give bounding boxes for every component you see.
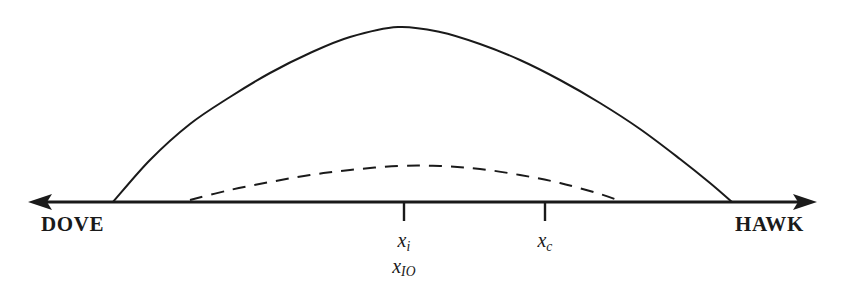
tick-label-xio: xIO	[374, 254, 434, 280]
dashed-curve	[190, 166, 620, 201]
tick-label-group-xc: xc	[515, 228, 575, 254]
tick-label-xi: xi	[374, 228, 434, 254]
tick-label-xi-subscript: i	[406, 239, 410, 254]
axis-label-dove: DOVE	[41, 214, 104, 235]
policy-spectrum-figure: DOVE HAWK xi xIO xc	[0, 0, 845, 302]
solid-curve	[113, 27, 732, 202]
axis-label-hawk: HAWK	[735, 214, 804, 235]
tick-label-xio-base: x	[392, 255, 401, 277]
tick-label-xc: xc	[515, 228, 575, 254]
tick-label-xio-subscript: IO	[401, 264, 416, 279]
tick-label-xc-subscript: c	[546, 239, 552, 254]
tick-label-xc-base: x	[537, 229, 546, 251]
tick-label-group-xi: xi xIO	[374, 228, 434, 279]
